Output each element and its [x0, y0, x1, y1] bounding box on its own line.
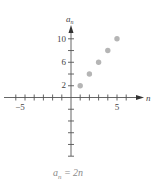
- data-point: [87, 71, 92, 76]
- y-tick-label-6: 6: [62, 57, 67, 67]
- data-points: [78, 36, 120, 88]
- x-tick-label-neg5: −5: [15, 102, 25, 112]
- sequence-plot: n an −5 5 2 6 10: [0, 0, 156, 185]
- y-tick-label-2: 2: [62, 80, 67, 90]
- y-axis-arrow-icon: [69, 25, 74, 33]
- data-point: [105, 48, 110, 53]
- data-point: [114, 36, 119, 41]
- y-tick-label-10: 10: [57, 34, 67, 44]
- data-point: [78, 83, 83, 88]
- data-point: [96, 60, 101, 65]
- x-axis-arrow-icon: [136, 95, 144, 100]
- chart-caption: an = 2n: [0, 167, 136, 181]
- x-tick-label-5: 5: [115, 102, 120, 112]
- x-axis-label: n: [146, 93, 151, 103]
- y-axis-label: an: [66, 14, 74, 25]
